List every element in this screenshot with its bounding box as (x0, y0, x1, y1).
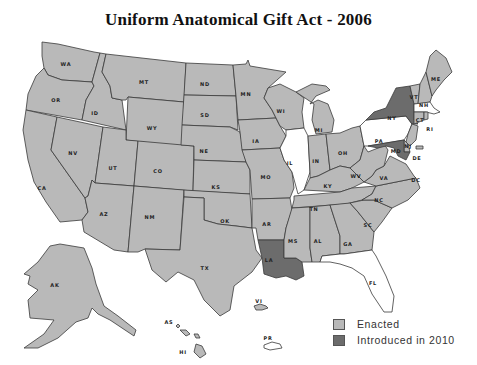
svg-text:UT: UT (108, 165, 117, 171)
svg-text:WV: WV (351, 173, 362, 179)
svg-text:NH: NH (419, 102, 429, 108)
svg-text:NJ: NJ (404, 143, 412, 149)
svg-text:IN: IN (312, 158, 320, 164)
svg-text:MD: MD (391, 148, 402, 154)
svg-text:AS: AS (164, 319, 173, 325)
svg-text:IL: IL (287, 160, 294, 166)
svg-text:PR: PR (263, 335, 272, 341)
legend-swatch-introduced (333, 335, 345, 346)
svg-text:MO: MO (261, 174, 272, 180)
svg-text:NM: NM (145, 214, 156, 220)
svg-text:CO: CO (153, 168, 163, 174)
legend-item-enacted: Enacted (333, 316, 455, 332)
svg-text:AR: AR (262, 221, 271, 227)
svg-text:NY: NY (387, 115, 396, 121)
svg-text:OH: OH (338, 150, 348, 156)
svg-text:VI: VI (255, 298, 262, 304)
svg-text:ME: ME (431, 76, 441, 82)
legend-item-introduced: Introduced in 2010 (333, 332, 455, 348)
svg-text:GA: GA (343, 241, 353, 247)
state-sd[interactable] (182, 95, 238, 130)
svg-text:AL: AL (314, 238, 323, 244)
svg-text:TX: TX (201, 265, 210, 271)
state-nd[interactable] (184, 63, 236, 96)
svg-text:WA: WA (61, 61, 72, 67)
svg-text:ND: ND (200, 81, 210, 87)
svg-text:TN: TN (309, 206, 318, 212)
state-ks[interactable] (193, 160, 250, 194)
svg-text:OR: OR (51, 97, 61, 103)
svg-text:MN: MN (241, 91, 252, 97)
svg-text:IA: IA (252, 138, 259, 144)
state-fl[interactable] (320, 250, 394, 312)
svg-text:MT: MT (139, 79, 149, 85)
state-me[interactable] (426, 50, 452, 96)
state-ak[interactable] (24, 244, 136, 348)
svg-text:SD: SD (200, 112, 209, 118)
legend-label-enacted: Enacted (357, 318, 400, 330)
svg-text:MI: MI (315, 127, 323, 133)
svg-text:KS: KS (211, 184, 220, 190)
state-vi[interactable] (254, 304, 268, 310)
svg-text:NE: NE (199, 148, 208, 154)
svg-text:OK: OK (220, 218, 230, 224)
svg-text:RI: RI (426, 126, 433, 132)
legend-label-introduced: Introduced in 2010 (357, 334, 455, 346)
svg-text:DC: DC (411, 177, 420, 183)
svg-text:ID: ID (91, 110, 99, 116)
svg-text:HI: HI (179, 349, 187, 355)
legend-swatch-enacted (333, 319, 345, 330)
state-co[interactable] (134, 141, 194, 191)
svg-text:PA: PA (375, 138, 384, 144)
svg-text:VT: VT (410, 94, 419, 100)
svg-text:AK: AK (50, 282, 60, 288)
svg-text:WY: WY (147, 125, 158, 131)
svg-text:CA: CA (37, 185, 46, 191)
svg-text:MS: MS (288, 238, 298, 244)
svg-text:FL: FL (369, 280, 377, 286)
state-as[interactable] (176, 324, 180, 328)
svg-text:KY: KY (323, 183, 332, 189)
us-map: WA OR CA ID NV MT WY UT AZ CO NM ND SD N… (0, 0, 477, 365)
legend: Enacted Introduced in 2010 (333, 316, 455, 348)
svg-text:SC: SC (364, 222, 373, 228)
svg-text:WI: WI (277, 108, 286, 114)
svg-text:DE: DE (412, 155, 421, 161)
svg-text:NV: NV (68, 150, 78, 156)
svg-text:LA: LA (265, 257, 274, 263)
svg-text:AZ: AZ (99, 211, 108, 217)
svg-text:CT: CT (416, 117, 425, 123)
svg-text:VA: VA (380, 175, 389, 181)
state-mt[interactable] (102, 54, 186, 102)
state-wy[interactable] (126, 97, 184, 147)
svg-text:NC: NC (374, 197, 383, 203)
state-nm[interactable] (128, 186, 184, 252)
state-pr[interactable] (264, 342, 282, 350)
state-ri[interactable] (424, 112, 428, 120)
state-dc[interactable] (416, 146, 423, 149)
